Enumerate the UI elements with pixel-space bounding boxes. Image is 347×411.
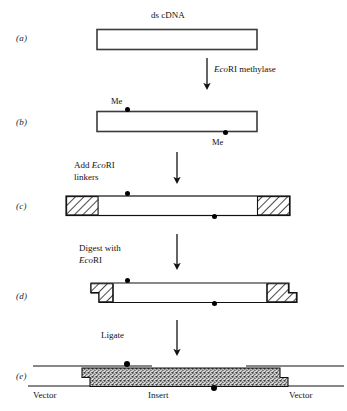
panel-c-linkered-box [66,196,290,216]
diagram-vector-layer [0,0,347,411]
sticky-end-left-hatch [91,284,113,302]
figure-canvas: ds cDNA (a) (b) (c) (d) (e) [0,0,347,411]
label-vector-right: Vector [289,390,313,400]
label-vector-left: Vector [33,390,57,400]
sticky-end-right-hatch [267,284,296,302]
caption-ligate: Ligate [101,330,124,340]
caption-add-linkers-line2: linkers [74,171,115,183]
caption-methylase-text: RI methylase [228,64,276,74]
methyl-dot-top-e [124,361,130,367]
panel-d-sticky-end-fragment [91,283,297,303]
methyl-label-top: Me [111,96,122,106]
caption-digest: Digest with EcoRI [79,242,121,266]
methyl-dot-bottom-b [223,130,228,135]
panel-b-methylated-box [97,112,257,132]
label-insert: Insert [148,390,169,400]
panel-a-dscdna-box [97,30,257,50]
methyl-dot-bottom-d [212,301,217,306]
caption-add-linkers-enzyme-italic: Eco [92,160,106,170]
caption-digest-line1: Digest with [79,242,121,254]
insert-stippled-body [82,368,288,387]
caption-digest-post: RI [93,255,102,265]
caption-add-linkers-pre: Add [74,160,92,170]
methyl-dot-top-c [125,191,130,196]
caption-digest-enzyme-italic: Eco [79,255,93,265]
linker-left-hatch [67,197,99,215]
methyl-dot-bottom-e [211,385,217,391]
caption-methylase: EcoRI methylase [214,64,276,74]
panel-e-recombinant [28,366,344,387]
methyl-dot-top-b [125,107,130,112]
methyl-dot-top-d [125,278,130,283]
caption-add-linkers-post: RI [106,160,115,170]
methyl-label-bottom: Me [212,137,223,147]
caption-add-linkers: Add EcoRI linkers [74,159,115,183]
caption-methylase-enzyme-italic: Eco [214,64,228,74]
linker-right-hatch [258,197,290,215]
methyl-dot-bottom-c [212,214,217,219]
